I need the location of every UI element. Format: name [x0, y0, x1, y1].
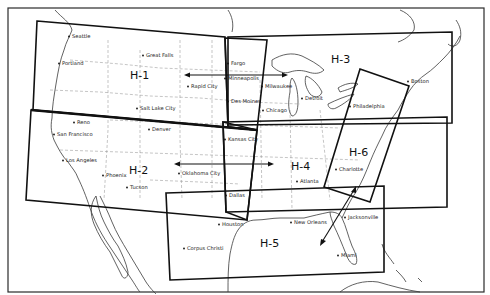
- city-label: Charlotte: [339, 166, 363, 172]
- city-dot-icon: [225, 195, 227, 197]
- chart-label-h5: H-5: [260, 237, 279, 250]
- city-label: Portland: [62, 60, 83, 66]
- city-label: Seattle: [72, 33, 90, 39]
- city-marker: San Francisco: [53, 131, 93, 137]
- city-dot-icon: [148, 129, 150, 131]
- city-marker: Atlanta: [296, 178, 319, 184]
- city-label: Salt Lake City: [140, 105, 176, 112]
- city-marker: Corpus Christi: [183, 245, 223, 252]
- city-dot-icon: [183, 248, 185, 250]
- city-marker: Boston: [407, 78, 429, 84]
- arrow-head-right-icon: [268, 162, 274, 167]
- chart-label-h3: H-3: [331, 53, 350, 66]
- city-dot-icon: [218, 224, 220, 226]
- city-marker: Portland: [58, 60, 83, 66]
- city-dot-icon: [290, 222, 292, 224]
- chart-index-map: H-1H-2H-3H-4H-5H-6 SeattlePortlandGreat …: [0, 0, 490, 295]
- city-label: Dallas: [229, 192, 245, 198]
- city-marker: Seattle: [68, 33, 90, 39]
- city-label: Milwaukee: [265, 83, 292, 89]
- city-label: Phoenix: [106, 172, 127, 178]
- city-dot-icon: [301, 98, 303, 100]
- city-marker: Jacksonville: [344, 214, 378, 221]
- city-marker: Los Angeles: [62, 157, 97, 164]
- city-label: Fargo: [231, 60, 245, 67]
- city-dot-icon: [136, 108, 138, 110]
- city-dot-icon: [407, 81, 409, 83]
- city-marker: Rapid City: [187, 83, 217, 90]
- city-marker: Miami: [337, 252, 356, 258]
- city-marker: Philadelphia: [349, 103, 385, 110]
- arrow-head-left-icon: [184, 73, 190, 78]
- city-dot-icon: [142, 55, 144, 57]
- city-marker: Milwaukee: [261, 83, 292, 89]
- city-dot-icon: [344, 217, 346, 219]
- city-label: Philadelphia: [353, 103, 385, 110]
- city-label: New Orleans: [294, 219, 327, 225]
- city-marker: Charlotte: [335, 166, 363, 172]
- city-label: Kansas City: [228, 136, 258, 143]
- city-dot-icon: [349, 106, 351, 108]
- city-label: Des Moines: [231, 98, 261, 104]
- city-marker: Denver: [148, 126, 172, 132]
- cities: SeattlePortlandGreat FallsFargoMinneapol…: [53, 33, 429, 258]
- chart-label-h6: H-6: [349, 146, 368, 159]
- city-dot-icon: [58, 63, 60, 65]
- map-frame: [8, 8, 484, 292]
- city-marker: Tucson: [126, 184, 148, 190]
- city-marker: Minneapolis: [224, 75, 259, 82]
- city-marker: Des Moines: [227, 98, 261, 104]
- city-marker: Kansas City: [224, 136, 258, 143]
- city-label: Los Angeles: [66, 157, 97, 164]
- city-marker: Houston: [218, 221, 243, 227]
- city-marker: Dallas: [225, 192, 245, 198]
- city-dot-icon: [227, 63, 229, 65]
- city-marker: Chicago: [262, 107, 287, 114]
- city-label: Houston: [222, 221, 244, 227]
- city-marker: Fargo: [227, 60, 245, 67]
- city-dot-icon: [53, 134, 55, 136]
- chart-label-h2: H-2: [129, 164, 148, 177]
- city-dot-icon: [68, 36, 70, 38]
- city-dot-icon: [296, 181, 298, 183]
- city-label: Chicago: [266, 107, 287, 114]
- overlap-arrows: [174, 73, 356, 247]
- city-marker: Great Falls: [142, 52, 174, 58]
- city-dot-icon: [224, 78, 226, 80]
- city-label: Reno: [77, 119, 90, 125]
- city-label: Detroit: [305, 95, 323, 101]
- city-label: Corpus Christi: [187, 245, 224, 252]
- city-label: Jacksonville: [347, 214, 378, 221]
- h6-boundary: [324, 69, 409, 202]
- city-label: San Francisco: [57, 131, 93, 137]
- city-dot-icon: [178, 173, 180, 175]
- city-marker: Phoenix: [102, 172, 126, 178]
- city-label: Boston: [411, 78, 429, 84]
- city-dot-icon: [262, 110, 264, 112]
- city-marker: Reno: [73, 119, 90, 125]
- city-label: Great Falls: [146, 52, 174, 58]
- city-dot-icon: [102, 175, 104, 177]
- city-dot-icon: [187, 86, 189, 88]
- city-dot-icon: [337, 255, 339, 257]
- city-label: Atlanta: [300, 178, 319, 184]
- city-marker: New Orleans: [290, 219, 327, 225]
- city-dot-icon: [73, 122, 75, 124]
- city-label: Oklahoma City: [182, 170, 220, 177]
- arrow-head-down-icon: [320, 239, 326, 246]
- city-marker: Oklahoma City: [178, 170, 220, 177]
- city-dot-icon: [62, 160, 64, 162]
- city-dot-icon: [224, 139, 226, 141]
- chart-label-h1: H-1: [130, 69, 149, 82]
- city-label: Minneapolis: [228, 75, 259, 82]
- city-marker: Detroit: [301, 95, 323, 101]
- chart-label-h4: H-4: [291, 160, 310, 173]
- city-marker: Salt Lake City: [136, 105, 175, 112]
- city-dot-icon: [126, 187, 128, 189]
- arrow-head-right-icon: [282, 73, 288, 78]
- city-label: Denver: [152, 126, 172, 132]
- city-label: Tucson: [129, 184, 148, 190]
- city-label: Miami: [341, 252, 357, 258]
- city-dot-icon: [227, 101, 229, 103]
- city-label: Rapid City: [191, 83, 218, 90]
